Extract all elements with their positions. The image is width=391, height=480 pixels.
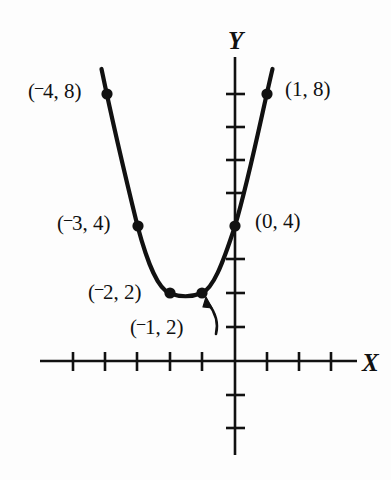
label-rest: 4, 8) <box>43 79 82 103</box>
plotted-points <box>101 88 272 298</box>
point-label-0-4: (0, 4) <box>255 211 301 232</box>
paren-open: ( <box>88 280 95 304</box>
point-0-4 <box>229 220 240 231</box>
point-label-neg1-2: (–1, 2) <box>130 315 183 338</box>
paren-open: ( <box>28 79 35 103</box>
point-label-neg4-8: (–4, 8) <box>28 79 81 102</box>
graph-figure: (–4, 8) (–3, 4) (–2, 2) (–1, 2) (0, 4) (… <box>0 0 391 480</box>
y-axis-label: Y <box>228 28 243 53</box>
point-label-neg3-4: (–3, 4) <box>57 211 110 234</box>
paren-open: ( <box>57 211 64 235</box>
coordinate-plane <box>0 0 391 480</box>
point-label-neg2-2: (–2, 2) <box>88 280 141 303</box>
point-neg3-4 <box>132 220 143 231</box>
point-label-1-8: (1, 8) <box>285 79 331 100</box>
label-rest: 2, 2) <box>103 280 142 304</box>
curved-arrow-head <box>203 297 212 308</box>
label-rest: 1, 2) <box>145 315 184 339</box>
point-neg4-8 <box>101 88 112 99</box>
point-1-8 <box>261 88 272 99</box>
label-rest: 3, 4) <box>72 211 111 235</box>
paren-open: ( <box>130 315 137 339</box>
point-neg2-2 <box>164 287 175 298</box>
curved-arrow-annotation <box>203 297 217 334</box>
parabola-curve <box>102 69 273 296</box>
x-axis-label: X <box>362 350 379 375</box>
